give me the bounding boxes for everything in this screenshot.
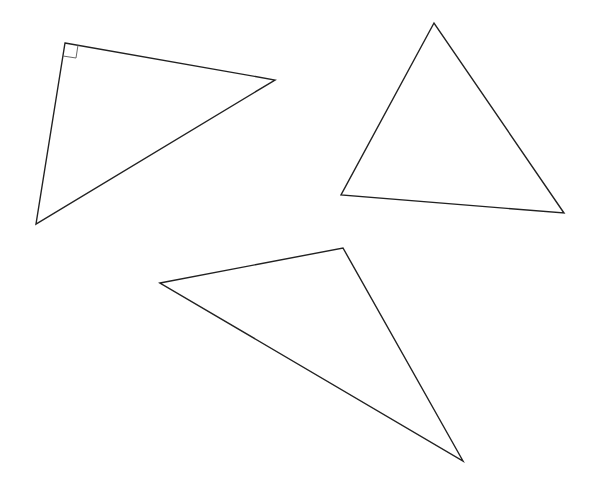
right-angle-marker bbox=[63, 45, 78, 58]
right-triangle bbox=[36, 43, 275, 224]
obtuse-triangle bbox=[160, 248, 463, 461]
diagram-canvas bbox=[0, 0, 594, 492]
triangles-diagram bbox=[0, 0, 594, 492]
acute-triangle bbox=[341, 23, 564, 213]
